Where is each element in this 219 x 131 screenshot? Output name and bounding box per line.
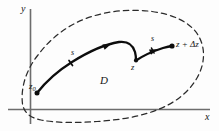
y-axis-label: y: [21, 4, 25, 14]
arc-label-first: s: [71, 49, 74, 57]
figure-canvas: [0, 0, 219, 131]
axes-group: [8, 9, 210, 124]
contour-arrowhead-first: [102, 41, 112, 50]
point-marker-z: [134, 58, 138, 62]
start-point-label-subscript: 0: [33, 85, 36, 92]
x-axis-label: x: [205, 112, 209, 122]
arc-label-second: s: [151, 35, 154, 43]
mid-point-label: z: [131, 63, 134, 72]
region-boundary-group: [22, 10, 203, 122]
point-marker-z-plus-dz: [169, 43, 174, 48]
region-label: D: [100, 75, 108, 86]
contour-arc-first: [37, 42, 136, 93]
contour-group: [35, 41, 175, 95]
start-point-label: z0: [29, 82, 36, 92]
region-boundary-dashed: [22, 10, 203, 122]
end-point-label-text: z + Δz: [176, 39, 199, 49]
end-point-label: z + Δz: [176, 40, 199, 49]
figure-container: y x z0 s s z z + Δz D: [0, 0, 219, 131]
